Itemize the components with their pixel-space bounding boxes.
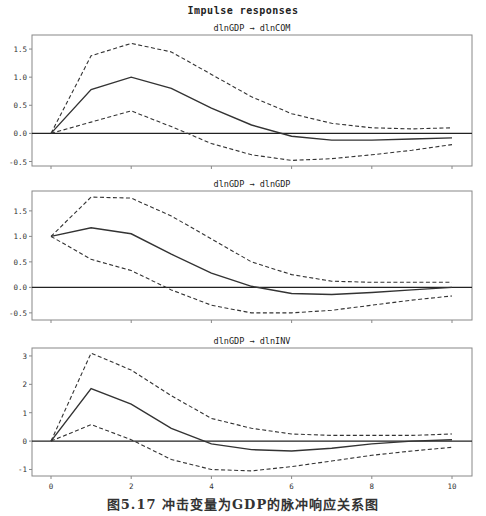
y-tick-label: 2	[22, 380, 27, 389]
series-response	[51, 228, 452, 295]
x-tick-label: 10	[447, 482, 457, 491]
y-tick-label: 0.5	[13, 101, 27, 110]
y-tick-label: -0.5	[9, 158, 27, 167]
y-tick-label: 1.5	[13, 45, 27, 54]
series-response	[51, 77, 452, 140]
series-upper	[51, 43, 452, 133]
panel-title: dlnGDP → dlnCOM	[214, 23, 291, 33]
panel-title: dlnGDP → dlnINV	[214, 336, 291, 346]
impulse-response-charts: dlnGDP → dlnCOM-0.50.00.51.01.5dlnGDP → …	[0, 0, 486, 516]
series-lower	[51, 236, 452, 313]
figure-caption: 图5.17 冲击变量为GDP的脉冲响应关系图	[0, 494, 486, 513]
x-tick-label: 0	[49, 482, 54, 491]
series-lower	[51, 425, 452, 471]
y-tick-label: -0.5	[9, 309, 27, 318]
y-tick-label: 3	[22, 352, 27, 361]
panel-title: dlnGDP → dlnGDP	[214, 179, 291, 189]
y-tick-label: 1.5	[13, 207, 27, 216]
x-tick-label: 2	[129, 482, 134, 491]
y-tick-label: 0.0	[13, 129, 27, 138]
plot-frame	[32, 35, 472, 166]
y-tick-label: 1.0	[13, 232, 27, 241]
y-tick-label: 0.0	[13, 283, 27, 292]
y-tick-label: 1	[22, 409, 27, 418]
x-tick-label: 6	[289, 482, 294, 491]
y-tick-label: 0	[22, 437, 27, 446]
y-tick-label: 1.0	[13, 73, 27, 82]
y-tick-label: -1	[18, 465, 27, 474]
series-lower	[51, 111, 452, 160]
y-tick-label: 0.5	[13, 258, 27, 267]
x-tick-label: 4	[209, 482, 214, 491]
plot-frame	[32, 348, 472, 476]
x-tick-label: 8	[370, 482, 375, 491]
series-upper	[51, 197, 452, 282]
